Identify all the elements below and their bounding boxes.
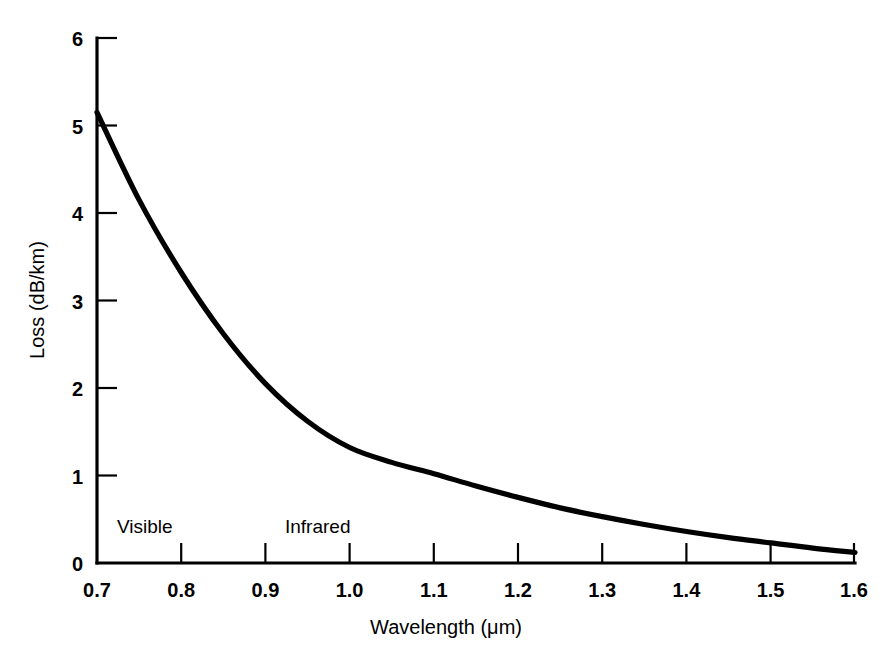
infrared-region-label: Infrared xyxy=(285,516,350,537)
x-tick-label-1.4: 1.4 xyxy=(672,579,701,601)
x-tick-label-1.5: 1.5 xyxy=(757,579,785,601)
x-tick-label-0.9: 0.9 xyxy=(251,579,279,601)
y-tick-label-3: 3 xyxy=(72,291,83,313)
x-tick-label-0.8: 0.8 xyxy=(167,579,195,601)
x-tick-label-1.2: 1.2 xyxy=(504,579,532,601)
x-tick-label-1.0: 1.0 xyxy=(336,579,364,601)
y-tick-label-2: 2 xyxy=(72,378,83,400)
y-tick-label-4: 4 xyxy=(72,203,84,225)
y-tick-label-6: 6 xyxy=(72,28,83,50)
x-tick-label-1.3: 1.3 xyxy=(588,579,616,601)
x-tick-label-1.6: 1.6 xyxy=(840,579,868,601)
y-axis-title: Loss (dB/km) xyxy=(26,241,48,359)
y-tick-label-0: 0 xyxy=(72,553,83,575)
x-tick-label-0.7: 0.7 xyxy=(83,579,111,601)
y-tick-label-1: 1 xyxy=(72,466,83,488)
y-tick-label-5: 5 xyxy=(72,116,83,138)
figure-container: 6 5 4 3 2 1 0 0.7 0.8 0.9 1.0 1.1 1.2 1.… xyxy=(0,0,893,662)
x-axis-title: Wavelength (μm) xyxy=(370,616,522,638)
x-tick-label-1.1: 1.1 xyxy=(420,579,448,601)
visible-region-label: Visible xyxy=(117,516,173,537)
attenuation-chart: 6 5 4 3 2 1 0 0.7 0.8 0.9 1.0 1.1 1.2 1.… xyxy=(0,0,893,662)
